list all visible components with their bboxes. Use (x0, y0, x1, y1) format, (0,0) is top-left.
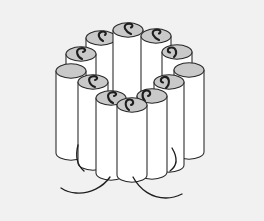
cylinder-top-ellipse (141, 29, 171, 43)
bundle-illustration: Bundle of cylindrical sticks arranged in… (0, 0, 264, 221)
cylinder-group-front (96, 89, 167, 182)
cylinder-top-ellipse (56, 64, 86, 78)
cylinder-top-ellipse (113, 23, 143, 37)
figure-canvas: Bundle of cylindrical sticks arranged in… (0, 0, 264, 221)
cylinder-stick-12 (117, 98, 147, 182)
cylinder-top-ellipse (174, 63, 204, 77)
cylinder-body (117, 105, 147, 182)
